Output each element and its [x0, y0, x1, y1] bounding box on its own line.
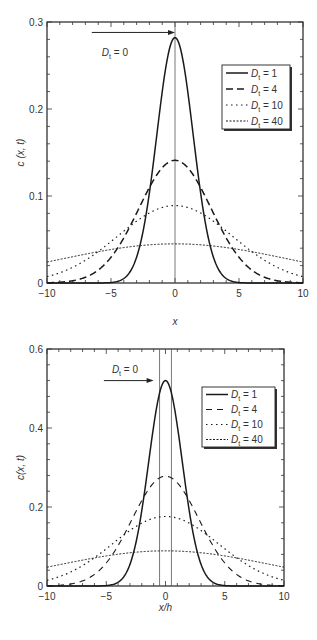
- x-tick-label: −5: [105, 288, 117, 299]
- series-line-D40: [47, 551, 284, 567]
- x-tick-label: 10: [278, 591, 290, 602]
- y-tick-label: 0: [37, 278, 43, 289]
- y-tick-label: 0.6: [29, 344, 43, 355]
- x-tick-label: 5: [236, 288, 242, 299]
- x-tick-label: 0: [163, 591, 169, 602]
- x-tick-label: 5: [222, 591, 228, 602]
- y-tick-label: 0.2: [29, 104, 43, 115]
- series-line-D10: [47, 516, 284, 580]
- x-tick-label: −5: [101, 591, 113, 602]
- arrow-head-icon: [147, 378, 154, 383]
- figure: −10−5051000.10.20.3xc (x, t)Dt = 0Dt = 1…: [0, 0, 317, 640]
- x-axis-label: x/h: [158, 602, 173, 613]
- top-chart: −10−5051000.10.20.3xc (x, t)Dt = 0Dt = 1…: [15, 17, 309, 328]
- annotation-initial: Dt = 0: [102, 47, 129, 60]
- arrow-head-icon: [168, 30, 175, 35]
- y-tick-label: 0.4: [29, 423, 43, 434]
- y-tick-label: 0.1: [29, 191, 43, 202]
- x-tick-label: −10: [39, 591, 56, 602]
- bottom-chart: −10−5051000.20.40.6x/hc(x, t)Dt = 0Dt = …: [15, 344, 290, 614]
- legend: Dt = 1Dt = 4Dt = 10Dt = 40: [202, 387, 277, 449]
- y-axis-label: c (x, t): [15, 139, 26, 167]
- x-axis-label: x: [172, 316, 179, 327]
- series-line-D4: [47, 476, 284, 586]
- y-axis-label: c(x, t): [15, 455, 26, 480]
- y-tick-label: 0.3: [29, 17, 43, 28]
- annotation-initial: Dt = 0: [112, 364, 139, 377]
- x-tick-label: 0: [172, 288, 178, 299]
- legend: Dt = 1Dt = 4Dt = 10Dt = 40: [222, 65, 292, 131]
- x-tick-label: 10: [297, 288, 309, 299]
- y-tick-label: 0.2: [29, 502, 43, 513]
- y-tick-label: 0: [37, 581, 43, 592]
- x-tick-label: −10: [39, 288, 56, 299]
